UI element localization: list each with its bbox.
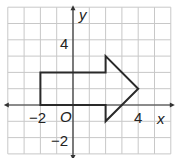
origin-label: O — [60, 108, 72, 125]
x-tick-label-neg2: −2 — [29, 109, 46, 126]
grid-lines — [8, 7, 171, 154]
y-tick-label-4: 4 — [60, 35, 68, 52]
coordinate-plane: x y O −2 4 4 −2 — [0, 0, 177, 158]
x-axis-label: x — [156, 110, 165, 127]
y-axis-label: y — [78, 6, 88, 23]
y-tick-label-neg2: −2 — [51, 132, 68, 149]
x-tick-label-4: 4 — [134, 109, 142, 126]
